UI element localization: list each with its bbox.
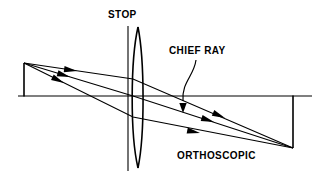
upper-marginal-ray-arrow-image-side xyxy=(212,110,226,121)
chief-ray-label: CHIEF RAY xyxy=(169,46,226,56)
ray-diagram-canvas xyxy=(0,0,321,180)
stop-label: STOP xyxy=(108,10,137,20)
orthoscopic-label: ORTHOSCOPIC xyxy=(177,151,256,161)
figure-root: STOP CHIEF RAY ORTHOSCOPIC xyxy=(0,0,321,180)
chief-ray-arrow-image-side xyxy=(201,115,215,125)
chief-ray-leader-line xyxy=(183,60,196,101)
